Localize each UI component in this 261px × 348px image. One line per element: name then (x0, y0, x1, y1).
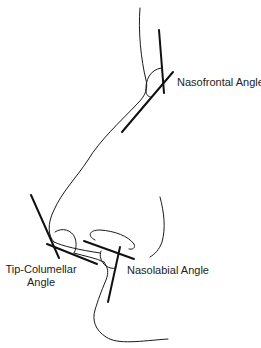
profile-outline (49, 8, 147, 242)
nasolabial-angle-label: Nasolabial Angle (127, 264, 209, 277)
tip-columellar-label-line1: Tip-Columellar (4, 263, 78, 276)
nasofrontal-arc (146, 68, 161, 97)
tip-columellar-label-line2: Angle (4, 276, 78, 289)
nasofrontal-diagonal-line (122, 72, 173, 132)
profile-drawing (0, 0, 261, 348)
nasal-angles-diagram: Nasofrontal Angle Tip-Columellar Angle N… (0, 0, 261, 348)
tip-columellar-line-b (47, 244, 97, 264)
nasolabial-lip-line (108, 247, 120, 302)
nasolabial-columella-line (84, 241, 134, 259)
nasolabial-arc (100, 251, 116, 268)
cheek-curve (150, 197, 164, 257)
tip-columellar-line-a (31, 195, 59, 258)
tip-columellar-angle-label: Tip-Columellar Angle (4, 263, 78, 289)
nasofrontal-angle-label: Nasofrontal Angle (177, 76, 261, 89)
